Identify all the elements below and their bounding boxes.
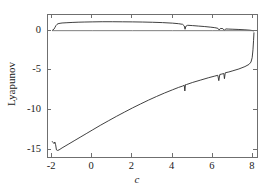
y-axis-tick-label: -15 xyxy=(0,143,41,155)
y-axis-tick xyxy=(47,30,51,31)
x-axis-tick xyxy=(212,14,213,18)
x-axis-tick-label: 4 xyxy=(157,160,187,172)
x-axis-tick-label: 0 xyxy=(76,160,106,172)
x-axis-tick-label: 8 xyxy=(237,160,267,172)
y-axis-tick xyxy=(253,69,257,70)
series-line xyxy=(52,32,254,150)
y-axis-tick-label: -5 xyxy=(0,63,41,75)
y-axis-tick xyxy=(253,149,257,150)
plot-area xyxy=(47,14,258,158)
x-axis-tick xyxy=(91,14,92,18)
x-axis-tick-label: 6 xyxy=(197,160,227,172)
y-axis-tick xyxy=(47,109,51,110)
plot-curves xyxy=(48,15,258,158)
y-axis-tick xyxy=(253,109,257,110)
x-axis-tick xyxy=(252,153,253,157)
x-axis-tick-label: -2 xyxy=(36,160,66,172)
x-axis-tick xyxy=(131,14,132,18)
y-axis-tick xyxy=(253,30,257,31)
lyapunov-figure: Lyapunov c -2024680-5-10-15 xyxy=(0,0,274,190)
x-axis-tick xyxy=(172,14,173,18)
x-axis-tick xyxy=(91,153,92,157)
x-axis-tick xyxy=(212,153,213,157)
y-axis-tick-label: -10 xyxy=(0,103,41,115)
x-axis-tick xyxy=(51,153,52,157)
series-line xyxy=(52,22,254,31)
x-axis-label: c xyxy=(0,173,274,185)
x-axis-tick xyxy=(131,153,132,157)
y-axis-tick xyxy=(47,149,51,150)
x-axis-tick xyxy=(252,14,253,18)
x-axis-tick-label: 2 xyxy=(116,160,146,172)
x-axis-tick xyxy=(51,14,52,18)
x-axis-tick xyxy=(172,153,173,157)
y-axis-tick xyxy=(47,69,51,70)
y-axis-tick-label: 0 xyxy=(0,24,41,36)
